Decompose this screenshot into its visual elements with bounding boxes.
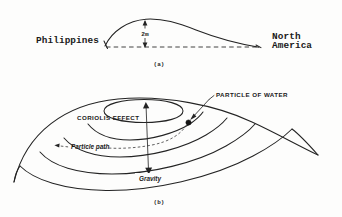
panel-b-group: CORIOLIS EFFECT PARTICLE OF WATER Partic… bbox=[14, 91, 318, 206]
caption-panel-a: (a) bbox=[154, 61, 165, 68]
label-particle-of-water: PARTICLE OF WATER bbox=[216, 91, 288, 98]
label-philippines: Philippines bbox=[36, 35, 99, 46]
label-north-america-line2: America bbox=[272, 40, 312, 51]
height-label: 2m bbox=[141, 31, 149, 38]
bulge-profile-curve bbox=[105, 19, 259, 47]
right-flank-edge bbox=[292, 129, 318, 155]
caption-panel-b: (b) bbox=[154, 199, 165, 206]
label-particle-path: Particle path bbox=[71, 143, 109, 151]
scientific-figure: 2m Philippines North America (a) bbox=[0, 0, 342, 217]
label-coriolis-effect: CORIOLIS EFFECT bbox=[77, 114, 139, 121]
gravity-arrow bbox=[145, 105, 152, 175]
water-particle-dot bbox=[186, 120, 191, 125]
coriolis-arrowhead bbox=[143, 102, 149, 108]
panel-a-group: 2m Philippines North America (a) bbox=[36, 19, 312, 68]
particle-leader-line bbox=[209, 96, 214, 100]
particle-pointer-arrow bbox=[190, 100, 209, 121]
figure-root: 2m Philippines North America (a) bbox=[0, 0, 342, 217]
left-flank-edge bbox=[14, 166, 20, 182]
label-gravity: Gravity bbox=[139, 175, 161, 183]
contour-ring-outer-base bbox=[14, 98, 318, 182]
particle-path-leader-arrowhead bbox=[54, 144, 59, 148]
